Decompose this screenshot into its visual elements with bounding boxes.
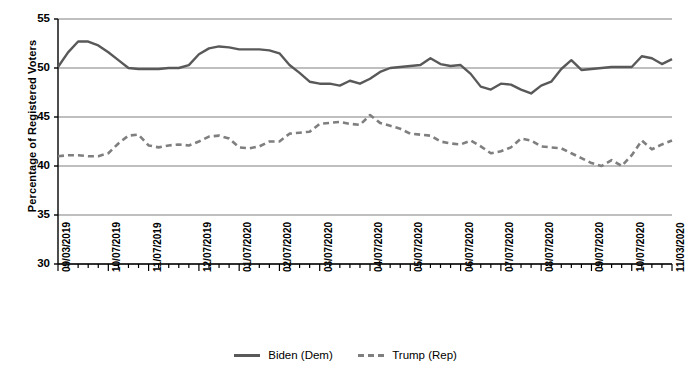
plot-area (0, 0, 691, 374)
series-line-trump-rep (58, 115, 672, 166)
legend-item-trump[interactable]: Trump (Rep) (358, 348, 457, 361)
legend-item-biden[interactable]: Biden (Dem) (234, 348, 333, 361)
chart-legend: Biden (Dem) Trump (Rep) (0, 348, 691, 361)
polling-line-chart: Percentage of Registered Voters 30354045… (0, 0, 691, 374)
legend-label-trump: Trump (Rep) (392, 349, 457, 361)
legend-swatch-dashed-icon (358, 350, 384, 360)
legend-label-biden: Biden (Dem) (268, 349, 333, 361)
legend-swatch-solid-icon (234, 350, 260, 360)
